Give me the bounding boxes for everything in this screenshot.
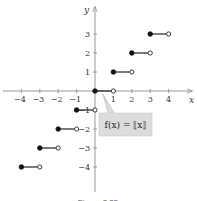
open-endpoint xyxy=(148,51,152,55)
y-tick-label: −2 xyxy=(78,125,90,134)
closed-endpoint xyxy=(111,70,116,75)
y-axis-ticks: 321−1−2−3−4 xyxy=(78,30,97,172)
y-tick-label: 2 xyxy=(85,49,90,58)
x-tick-label: −1 xyxy=(69,95,81,104)
closed-endpoint xyxy=(148,32,153,37)
function-callout: f(x) = ⟦x⟧ xyxy=(99,94,152,136)
y-tick-label: 3 xyxy=(85,30,90,39)
open-endpoint xyxy=(111,89,115,93)
y-tick-label: −4 xyxy=(78,163,90,172)
open-endpoint xyxy=(38,165,42,169)
callout-label: f(x) = ⟦x⟧ xyxy=(105,120,147,130)
closed-endpoint xyxy=(74,108,79,113)
x-axis-label: x xyxy=(189,95,194,105)
open-endpoint xyxy=(56,146,60,150)
x-tick-label: −3 xyxy=(32,95,44,104)
x-tick-label: 1 xyxy=(111,95,116,104)
x-tick-label: 2 xyxy=(129,95,134,104)
x-tick-label: 3 xyxy=(148,95,153,104)
closed-endpoint xyxy=(56,127,61,132)
step-function-chart: −4−3−2−11234 321−1−2−3−4 x y f(x) = ⟦x⟧ … xyxy=(0,0,197,201)
closed-endpoint xyxy=(130,51,135,56)
x-tick-label: −2 xyxy=(51,95,63,104)
open-endpoint xyxy=(93,108,97,112)
open-endpoint xyxy=(130,70,134,74)
closed-endpoint xyxy=(93,89,98,94)
x-tick-label: −4 xyxy=(14,95,26,104)
closed-endpoint xyxy=(38,146,43,151)
y-tick-label: 1 xyxy=(85,68,90,77)
figure-caption: Figure 2.35 xyxy=(78,198,119,201)
x-tick-label: 4 xyxy=(166,95,171,104)
open-endpoint xyxy=(75,127,79,131)
open-endpoint xyxy=(167,32,171,36)
y-axis-label: y xyxy=(83,5,90,15)
closed-endpoint xyxy=(19,165,24,170)
y-tick-label: −3 xyxy=(78,144,90,153)
